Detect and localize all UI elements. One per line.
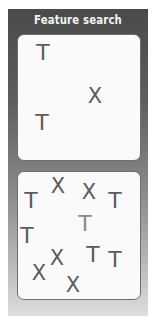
t-letter: T (35, 112, 48, 134)
x-letter: X (66, 275, 80, 296)
x-letter: X (82, 182, 96, 203)
x-letter: X (51, 176, 65, 197)
x-letter: X (50, 248, 64, 269)
t-letter: T (78, 213, 91, 235)
x-letter: X (88, 86, 102, 107)
t-letter: T (24, 190, 37, 212)
t-letter: T (86, 244, 99, 266)
t-letter: T (108, 249, 121, 271)
t-letter: T (108, 190, 121, 212)
t-letter: T (36, 42, 49, 64)
x-letter: X (32, 263, 46, 284)
title: Feature search (16, 13, 139, 27)
t-letter: T (20, 225, 33, 247)
